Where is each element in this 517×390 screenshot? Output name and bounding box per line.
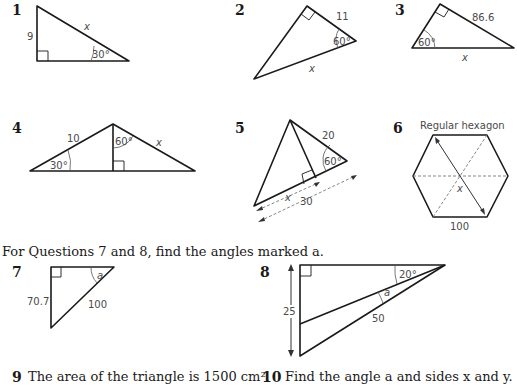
fig4-side-left-label: 10	[67, 133, 80, 144]
fig4-side-right-label: x	[155, 137, 162, 148]
fig5-angle-label: 60°	[324, 156, 342, 167]
fig4-angle-left-label: 30°	[50, 160, 68, 171]
fig7-angle-label: a	[97, 270, 103, 281]
figure-7-triangle: a 70.7 100	[27, 267, 114, 328]
fig2-side-label: 11	[336, 11, 349, 22]
fig8-side-label: 50	[372, 313, 385, 324]
figure-2-triangle: 11 60° x	[254, 6, 356, 79]
fig5-segment-label: x	[284, 192, 291, 203]
fig5-base-label: 30	[300, 196, 313, 207]
fig8-unknown-angle-label: a	[384, 287, 390, 298]
fig6-diagonal-label: x	[456, 183, 463, 194]
fig1-angle-label: 30°	[92, 49, 110, 60]
fig4-angle-top-label: 60°	[115, 136, 133, 147]
figure-3-triangle: 86.6 60° x	[412, 4, 514, 63]
fig2-angle-label: 60°	[333, 36, 351, 47]
fig6-title-label: Regular hexagon	[420, 120, 505, 131]
fig2-hyp-label: x	[308, 63, 315, 74]
figures-canvas: 9 x 30° 11 60° x 86.6 60° x 10 30° 60° x	[0, 0, 517, 390]
fig8-angle-label: 20°	[399, 269, 417, 280]
fig8-height-label: 25	[283, 306, 296, 317]
fig6-side-label: 100	[450, 221, 469, 232]
figure-5-triangle: 20 60° x 30	[254, 120, 357, 222]
figure-1-triangle: 9 x 30°	[27, 6, 129, 61]
fig7-hyp-label: 100	[88, 299, 107, 310]
fig3-angle-label: 60°	[418, 37, 436, 48]
figure-4-triangle: 10 30° 60° x	[30, 124, 195, 171]
fig3-side-label: 86.6	[472, 12, 494, 23]
fig7-side-label: 70.7	[27, 296, 49, 307]
figure-8-triangle: 20° a 50 25	[282, 264, 445, 357]
fig1-hyp-label: x	[83, 21, 90, 32]
fig1-side-label: 9	[27, 31, 33, 42]
figure-6-hexagon: Regular hexagon x 100	[413, 120, 508, 232]
fig3-hyp-label: x	[461, 52, 468, 63]
fig5-side-label: 20	[322, 130, 335, 141]
